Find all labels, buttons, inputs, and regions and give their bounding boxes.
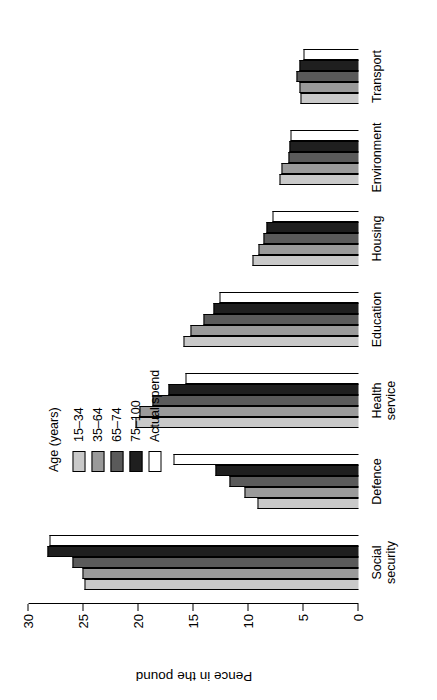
bar[interactable] <box>183 336 358 347</box>
value-axis-tick-label: 0 <box>352 614 365 621</box>
legend-label: 65–74 <box>110 407 123 442</box>
legend-label: 35–64 <box>91 407 104 442</box>
value-axis-tick-label: 10 <box>242 614 255 628</box>
value-axis-tick-label: 20 <box>132 614 145 628</box>
value-axis-tick <box>27 604 28 611</box>
bar[interactable] <box>72 557 358 568</box>
bar[interactable] <box>303 49 358 60</box>
legend-swatch <box>91 451 104 472</box>
value-axis-tick <box>247 604 248 611</box>
category-label: Education <box>369 292 383 348</box>
bar[interactable] <box>229 476 358 487</box>
bar[interactable] <box>190 325 358 336</box>
category-label: Defence <box>369 458 383 505</box>
category-label: Transport <box>369 50 383 103</box>
bar[interactable] <box>185 373 358 384</box>
bar[interactable] <box>139 406 358 417</box>
value-axis-tick <box>82 604 83 611</box>
bar[interactable] <box>272 211 358 222</box>
bar[interactable] <box>281 163 358 174</box>
legend-swatch <box>129 451 142 472</box>
bar[interactable] <box>47 546 358 557</box>
value-axis-tick <box>302 604 303 611</box>
bar-group: Transport <box>28 36 358 117</box>
value-axis-tick-label: 15 <box>187 614 200 628</box>
value-axis-tick-label: 30 <box>22 614 35 628</box>
value-axis-tick-label: 5 <box>297 614 310 621</box>
bar[interactable] <box>299 60 358 71</box>
value-axis-title-text: Pence in the pound <box>135 669 251 684</box>
legend-title: Age (years) <box>46 222 60 472</box>
bar[interactable] <box>213 303 358 314</box>
value-axis-tick <box>192 604 193 611</box>
category-label: Environment <box>369 122 383 192</box>
bar-chart-figure: Pence in the pound 051015202530 Social s… <box>0 0 437 700</box>
legend: Age (years) 15–3435–6465–7475–100Actual … <box>46 222 161 472</box>
bar[interactable] <box>263 233 358 244</box>
legend-entry[interactable]: 75–100 <box>129 222 142 472</box>
bar[interactable] <box>299 82 358 93</box>
bar[interactable] <box>219 292 358 303</box>
bar[interactable] <box>152 395 358 406</box>
bar[interactable] <box>49 535 358 546</box>
legend-entry[interactable]: 65–74 <box>110 222 123 472</box>
bar[interactable] <box>168 384 358 395</box>
bar[interactable] <box>300 93 358 104</box>
legend-label: Actual spend <box>148 370 161 442</box>
bar-group: Environment <box>28 117 358 198</box>
bar[interactable] <box>288 152 358 163</box>
bar[interactable] <box>244 487 358 498</box>
bar-group: Social security <box>28 522 358 603</box>
legend-entry[interactable]: Actual spend <box>148 222 161 472</box>
value-axis-tick <box>137 604 138 611</box>
category-label: Social security <box>369 541 397 584</box>
bar[interactable] <box>135 417 358 428</box>
bar[interactable] <box>173 454 358 465</box>
legend-swatch <box>110 451 123 472</box>
value-axis-tick <box>357 604 358 611</box>
legend-label: 15–34 <box>72 407 85 442</box>
bar[interactable] <box>296 71 358 82</box>
legend-label: 75–100 <box>129 400 142 442</box>
value-axis-title: Pence in the pound <box>28 668 358 686</box>
bar[interactable] <box>279 174 358 185</box>
bar[interactable] <box>290 130 358 141</box>
legend-entry[interactable]: 35–64 <box>91 222 104 472</box>
category-label: Housing <box>369 216 383 262</box>
legend-swatch <box>72 451 85 472</box>
legend-entries: 15–3435–6465–7475–100Actual spend <box>72 222 161 472</box>
bar[interactable] <box>203 314 358 325</box>
bar[interactable] <box>289 141 358 152</box>
legend-swatch <box>148 451 161 472</box>
bar[interactable] <box>82 568 358 579</box>
legend-entry[interactable]: 15–34 <box>72 222 85 472</box>
bar[interactable] <box>84 579 358 590</box>
category-label: Health service <box>369 381 397 421</box>
bar[interactable] <box>215 465 358 476</box>
bar[interactable] <box>252 255 358 266</box>
bar[interactable] <box>266 222 358 233</box>
bar[interactable] <box>258 244 358 255</box>
bar[interactable] <box>257 498 358 509</box>
figure-rotator: Pence in the pound 051015202530 Social s… <box>0 0 437 700</box>
value-axis-tick-label: 25 <box>77 614 90 628</box>
